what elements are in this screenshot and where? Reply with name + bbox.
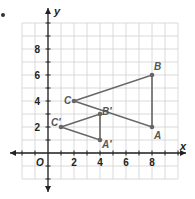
vertex-point: [72, 99, 77, 104]
vertex-label: C′: [51, 117, 61, 128]
x-tick-label: 2: [71, 157, 77, 168]
y-axis-arrow-down-icon: [45, 186, 51, 192]
origin-label: O: [36, 157, 44, 168]
vertex-point: [150, 73, 155, 78]
x-axis-label: x: [179, 140, 187, 152]
y-tick-label: 2: [34, 122, 40, 133]
y-axis-label: y: [53, 5, 61, 17]
x-tick-label: 4: [97, 157, 103, 168]
vertex-label: C: [64, 95, 72, 106]
x-axis-arrow-left-icon: [10, 150, 16, 156]
y-tick-label: 8: [34, 44, 40, 55]
y-axis-arrow-icon: [45, 8, 51, 14]
vertex-label: B′: [102, 106, 112, 117]
grid-lines: [22, 23, 178, 179]
vertex-point: [150, 125, 155, 130]
x-tick-label: 8: [149, 157, 155, 168]
y-tick-label: 6: [34, 70, 40, 81]
triangles: ABCA′B′C′: [51, 61, 161, 150]
vertex-label: B: [154, 61, 161, 72]
y-tick-label: 4: [34, 96, 40, 107]
vertex-label: A: [153, 130, 161, 141]
x-tick-label: 6: [123, 157, 129, 168]
coordinate-plane: xyO24682468 ABCA′B′C′: [0, 0, 195, 199]
vertex-label: A′: [101, 139, 112, 150]
